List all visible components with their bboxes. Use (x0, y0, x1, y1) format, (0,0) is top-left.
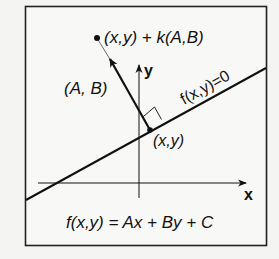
label-point-plus-normal: (x,y) + k(A,B) (104, 28, 204, 47)
label-x-axis: x (244, 186, 253, 203)
label-y-axis: y (144, 62, 153, 79)
label-point-xy: (x,y) (153, 132, 184, 149)
line-normal-diagram: (x,y) + k(A,B) (A, B) y f(x,y)=0 (x,y) x… (0, 0, 279, 259)
point-xy-dot (147, 127, 153, 133)
label-function-definition: f(x,y) = Ax + By + C (66, 213, 214, 232)
label-normal-vector: (A, B) (64, 79, 107, 98)
offset-point-dot (94, 35, 100, 41)
